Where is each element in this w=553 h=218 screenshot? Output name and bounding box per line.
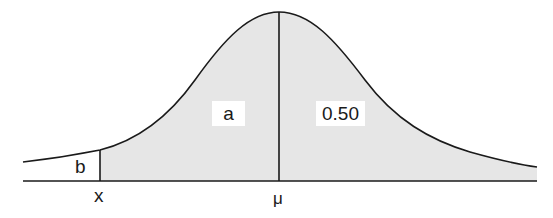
shaded-area: [100, 12, 537, 181]
region-label-right-half: 0.50: [316, 101, 365, 126]
region-label-a: a: [212, 101, 245, 126]
region-label-b: b: [75, 157, 86, 176]
axis-label-x: x: [94, 186, 104, 205]
normal-curve-diagram: [0, 0, 553, 218]
axis-label-mu: μ: [273, 190, 283, 207]
